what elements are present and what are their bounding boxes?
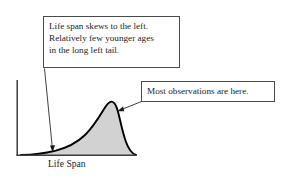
skewed-distribution-figure: Life span skews to the left. Relatively … — [0, 0, 283, 184]
x-axis-label: Life Span — [48, 158, 86, 169]
distribution-area-fill — [21, 102, 136, 155]
mode-callout-arrowhead — [117, 106, 124, 111]
skew-callout-arrow-line — [45, 69, 53, 148]
mode-callout-arrow-line — [122, 102, 142, 110]
mode-annotation-callout: Most observations are here. — [141, 81, 275, 102]
skew-annotation-callout: Life span skews to the left. Relatively … — [43, 16, 180, 68]
